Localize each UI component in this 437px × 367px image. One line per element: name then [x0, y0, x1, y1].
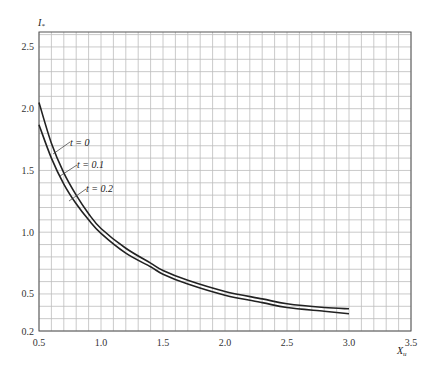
y-tick-label: 0.2	[22, 326, 35, 337]
x-tick-label: 3.0	[343, 337, 356, 348]
y-tick-label: 1.5	[22, 165, 35, 176]
annotation-t0.2: t = 0.2	[69, 183, 113, 201]
y-axis-ticks: 0.20.51.01.52.02.5	[22, 41, 35, 336]
y-tick-label: 2.0	[22, 103, 35, 114]
y-tick-label: 0.5	[22, 288, 35, 299]
x-axis-ticks: 0.51.01.52.02.53.03.5	[33, 337, 418, 348]
y-tick-label: 1.0	[22, 227, 35, 238]
curves	[39, 103, 349, 314]
svg-text:t = 0.1: t = 0.1	[77, 159, 104, 170]
annotation-t0.1: t = 0.1	[60, 159, 104, 176]
svg-text:t = 0: t = 0	[70, 137, 90, 148]
chart: 0.20.51.01.52.02.5 0.51.01.52.02.53.03.5…	[0, 0, 437, 367]
x-tick-label: 3.5	[405, 337, 418, 348]
x-tick-label: 2.0	[219, 337, 232, 348]
x-tick-label: 1.0	[95, 337, 108, 348]
svg-text:t = 0.2: t = 0.2	[86, 183, 113, 194]
x-tick-label: 0.5	[33, 337, 46, 348]
y-tick-label: 2.5	[22, 41, 35, 52]
x-tick-label: 1.5	[157, 337, 170, 348]
y-axis-label: I*	[37, 17, 45, 30]
x-tick-label: 2.5	[281, 337, 294, 348]
grid	[39, 32, 411, 331]
curve-t0.1-t0.2	[39, 125, 349, 314]
